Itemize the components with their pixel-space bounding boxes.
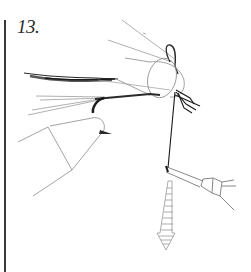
tying-thread (168, 92, 175, 168)
hackle (175, 90, 200, 113)
fly-tying-illustration (0, 0, 251, 272)
down-arrow-icon (157, 181, 175, 250)
hook-point (99, 130, 112, 134)
hook-bend (93, 98, 104, 113)
hook-shank (95, 94, 160, 99)
bobbin (166, 167, 236, 210)
upper-finger-outline (108, 20, 176, 62)
lower-finger-outline (18, 118, 104, 196)
